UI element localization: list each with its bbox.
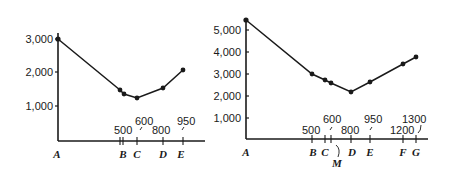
left-point-c — [135, 96, 140, 101]
right-point-b — [310, 72, 315, 77]
right-chart — [246, 18, 428, 157]
right-point-g — [414, 55, 419, 60]
left-dist-500: 500 — [114, 124, 132, 136]
right-y-label-2000: 2,000 — [213, 90, 241, 102]
right-y-label-1000: 1,000 — [213, 112, 241, 124]
left-letter-b: B — [118, 148, 126, 160]
right-dist-1300: 1300 — [402, 113, 426, 125]
right-slash-600 — [330, 127, 332, 130]
left-letter-a: A — [52, 148, 60, 160]
right-slash-950 — [370, 127, 372, 130]
right-dist-1200: 1200 — [390, 124, 414, 136]
right-y-label-3000: 3,000 — [213, 68, 241, 80]
right-letter-d: D — [347, 146, 356, 158]
right-point-f — [401, 62, 406, 67]
right-dist-500: 500 — [302, 124, 320, 136]
right-points — [243, 17, 418, 94]
left-point-d — [161, 86, 166, 91]
right-point-m — [329, 81, 334, 86]
left-slash-600 — [140, 127, 142, 130]
left-points — [55, 36, 185, 100]
left-point-a — [55, 36, 60, 41]
right-point-d — [349, 90, 354, 95]
right-y-label-4000: 4,000 — [213, 46, 241, 58]
left-dist-800: 800 — [152, 124, 170, 136]
right-letter-g: G — [412, 146, 420, 158]
right-letter-e: E — [365, 146, 373, 158]
left-point-b2 — [122, 92, 127, 97]
right-point-a — [243, 17, 248, 22]
right-dist-600: 600 — [323, 113, 341, 125]
left-slash-950 — [182, 127, 184, 130]
right-letter-f: F — [398, 146, 407, 158]
right-letter-a: A — [241, 146, 249, 158]
left-y-label-2000: 2,000 — [25, 66, 53, 78]
right-letter-b: B — [308, 146, 316, 158]
left-y-label-1000: 1,000 — [25, 100, 53, 112]
left-y-label-3000: 3,000 — [25, 33, 53, 45]
right-letter-c: C — [321, 146, 329, 158]
left-dist-950: 950 — [177, 115, 195, 127]
right-point-c — [323, 78, 328, 83]
right-y-label-5000: 5,000 — [213, 24, 241, 36]
charts-canvas: 3,000 2,000 1,000 500 600 800 950 A B C … — [0, 0, 452, 175]
left-point-e — [181, 68, 186, 73]
right-dist-800: 800 — [341, 124, 359, 136]
left-letter-e: E — [176, 148, 184, 160]
left-letter-c: C — [133, 148, 141, 160]
left-point-b — [118, 88, 123, 93]
right-dist-950: 950 — [364, 113, 382, 125]
right-letter-m: M — [331, 157, 343, 169]
right-bracket-m — [336, 145, 339, 157]
right-point-e — [368, 80, 373, 85]
left-dist-600: 600 — [135, 115, 153, 127]
right-bracket-1300 — [418, 125, 421, 133]
left-letter-d: D — [158, 148, 167, 160]
